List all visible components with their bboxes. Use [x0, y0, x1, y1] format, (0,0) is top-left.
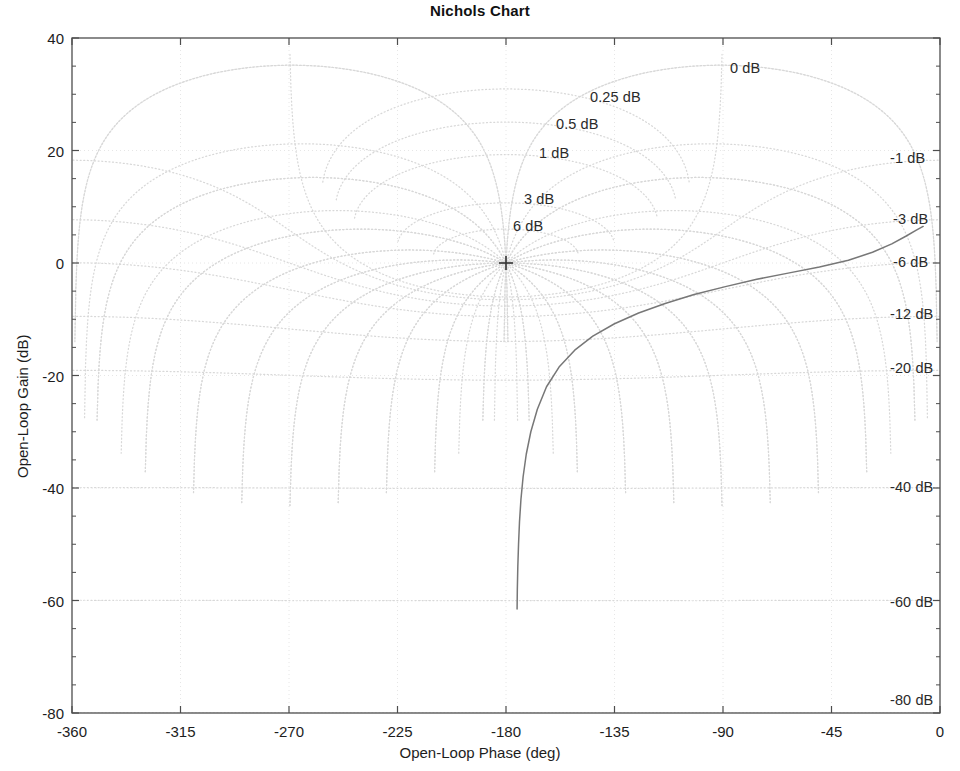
- y-axis-label: Open-Loop Gain (dB): [14, 335, 31, 478]
- closed-loop-mag-label: 3 dB: [524, 191, 554, 207]
- nichols-chart-figure: Nichols Chart -360-315-270-225-180-135-9…: [0, 0, 960, 771]
- x-axis-label: Open-Loop Phase (deg): [0, 744, 960, 761]
- plot-canvas: [0, 0, 960, 771]
- x-tick-label: -315: [165, 723, 195, 740]
- closed-loop-mag-label: -1 dB: [890, 150, 925, 166]
- y-tick-label: -80: [22, 705, 64, 722]
- x-tick-label: -135: [599, 723, 629, 740]
- x-tick-label: -270: [274, 723, 304, 740]
- closed-loop-mag-label: 0.25 dB: [590, 89, 641, 105]
- x-tick-label: -45: [821, 723, 843, 740]
- closed-loop-mag-label: 0.5 dB: [556, 116, 599, 132]
- y-tick-label: -60: [22, 592, 64, 609]
- closed-loop-mag-label: -12 dB: [890, 306, 933, 322]
- x-tick-label: 0: [936, 723, 944, 740]
- x-tick-label: -180: [491, 723, 521, 740]
- closed-loop-mag-label: -80 dB: [890, 692, 933, 708]
- closed-loop-mag-label: 6 dB: [513, 218, 543, 234]
- y-tick-label: 40: [22, 30, 64, 47]
- closed-loop-mag-label: 0 dB: [730, 60, 760, 76]
- closed-loop-mag-label: 1 dB: [539, 145, 569, 161]
- x-tick-label: -360: [57, 723, 87, 740]
- closed-loop-mag-label: -3 dB: [893, 211, 928, 227]
- y-tick-label: 20: [22, 142, 64, 159]
- closed-loop-mag-label: -20 dB: [890, 360, 933, 376]
- x-tick-label: -225: [382, 723, 412, 740]
- closed-loop-mag-label: -60 dB: [890, 594, 933, 610]
- closed-loop-mag-label: -40 dB: [890, 479, 933, 495]
- closed-loop-mag-label: -6 dB: [893, 254, 928, 270]
- x-tick-label: -90: [712, 723, 734, 740]
- y-tick-label: -40: [22, 480, 64, 497]
- y-tick-label: 0: [22, 255, 64, 272]
